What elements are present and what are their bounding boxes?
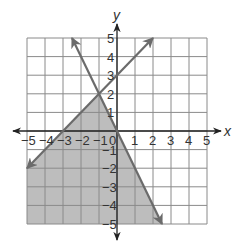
x-axis-label: x (223, 123, 232, 139)
y-tick-label: 3 (107, 68, 114, 83)
shaded-region (27, 94, 162, 224)
x-tick-label: −4 (39, 133, 54, 148)
x-tick-label: −5 (21, 133, 36, 148)
y-tick-label: −3 (102, 180, 117, 195)
x-tick-label: 4 (185, 133, 192, 148)
x-tick-label: −3 (57, 133, 72, 148)
y-tick-label: −5 (102, 217, 117, 232)
x-tick-label: −2 (75, 133, 90, 148)
y-tick-label: −2 (102, 161, 117, 176)
y-tick-label: 4 (107, 50, 114, 65)
y-tick-label: −1 (102, 143, 117, 158)
x-tick-label: 3 (167, 133, 174, 148)
x-tick-label: 2 (149, 133, 156, 148)
inequality-graph: −5−4−3−2−1012345−5−4−3−2−112345 x y (0, 0, 241, 248)
y-tick-label: 5 (107, 31, 114, 46)
y-tick-label: 1 (107, 105, 114, 120)
shaded-polygon (27, 94, 162, 224)
x-tick-label: 5 (203, 133, 210, 148)
y-tick-label: 2 (107, 87, 114, 102)
y-axis-label: y (112, 7, 121, 23)
x-tick-label: 1 (131, 133, 138, 148)
y-tick-label: −4 (102, 198, 117, 213)
